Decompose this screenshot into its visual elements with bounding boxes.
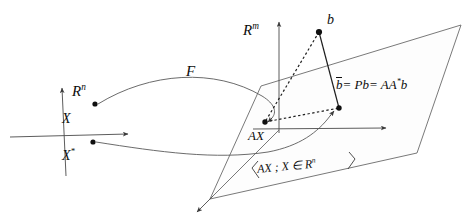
rn-horizontal-axis [10,134,128,137]
equation-part3: b [401,77,408,92]
range-plane [210,25,461,199]
point-AX [262,119,267,124]
label-point-b: b [327,13,334,27]
figure-canvas: Rn Rm F X X* b AX b= Pb= AA*b AX ; X ∈ R… [0,0,474,222]
point-b [316,29,322,35]
curve-upper-F [98,77,275,118]
equation-part2: = AA [369,77,397,92]
label-point-x-star: X* [62,149,75,163]
label-point-ax: AX [248,129,264,142]
equation-part1: = Pb [343,77,369,92]
equation-lhs-overbar-b: b [336,78,343,91]
label-map-f: F [186,64,195,79]
point-bbar [336,105,341,110]
point-X-star [90,139,95,144]
label-domain-rn: Rn [72,84,86,99]
label-projection-equation: b= Pb= AA*b [336,78,407,91]
label-codomain-rm: Rm [243,23,259,38]
diagram-vector-graphics [0,0,474,222]
point-X [92,101,97,106]
range-plane-group [210,25,461,199]
rm-depth-axis-extension [197,196,213,212]
set-exponent: n [311,155,316,164]
label-point-x: X [62,112,71,126]
